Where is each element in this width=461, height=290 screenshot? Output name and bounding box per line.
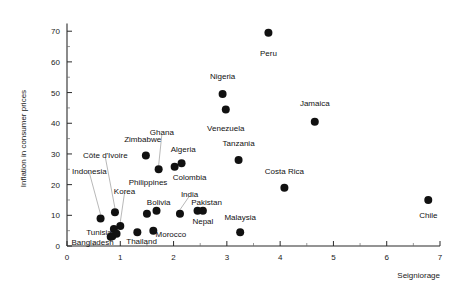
data-point (236, 228, 244, 236)
x-axis-tick-label: 1 (118, 253, 123, 262)
data-point-label: Thailand (126, 237, 157, 246)
x-axis-tick-label: 0 (65, 253, 70, 262)
x-axis-tick-label: 6 (384, 253, 389, 262)
x-axis-tick-label: 5 (331, 253, 336, 262)
data-point (155, 165, 163, 173)
data-point (97, 214, 105, 222)
data-point (178, 159, 186, 167)
data-point-label: Nepal (192, 217, 213, 226)
x-axis-tick-label: 7 (438, 253, 443, 262)
data-point (176, 210, 184, 218)
data-point (280, 184, 288, 192)
x-axis-title: Seigniorage (397, 271, 440, 280)
scatter-chart-figure: 01020304050607001234567 PeruNigeriaVenez… (0, 0, 461, 290)
data-point (142, 151, 150, 159)
data-point (219, 90, 227, 98)
data-point-label: Peru (260, 49, 277, 58)
data-point (171, 163, 179, 171)
x-axis-tick-label: 4 (278, 253, 283, 262)
data-point-label: Jamaica (300, 99, 330, 108)
x-axis-tick-label: 3 (225, 253, 230, 262)
data-point-label: Algeria (171, 145, 196, 154)
data-point-label: Indonesia (72, 167, 107, 176)
data-point (424, 196, 432, 204)
data-point-label: Nigeria (210, 72, 236, 81)
data-point (235, 156, 243, 164)
y-axis-tick-label: 10 (51, 211, 60, 220)
label-leader-line (120, 193, 124, 222)
data-point-label: Colombia (173, 173, 207, 182)
x-axis-tick-label: 2 (171, 253, 176, 262)
data-point-label: Bangladesh (71, 238, 113, 247)
y-axis-tick-label: 70 (51, 27, 60, 36)
data-point-label: Pakistan (191, 198, 222, 207)
data-point-label: Chile (419, 211, 438, 220)
y-axis-tick-label: 60 (51, 58, 60, 67)
data-point-label: Venezuela (207, 124, 245, 133)
y-axis-tick-label: 0 (56, 242, 61, 251)
point-labels-group: PeruNigeriaVenezuelaJamaicaZimbabweGhana… (71, 49, 437, 247)
data-point (311, 118, 319, 126)
axis-titles-group: SeigniorageInflation in consumer prices (19, 90, 441, 280)
data-point-label: Costa Rica (265, 167, 305, 176)
data-point (143, 210, 151, 218)
data-point (133, 228, 141, 236)
data-point-label: Morocco (156, 230, 187, 239)
y-axis-tick-label: 30 (51, 150, 60, 159)
data-point (111, 208, 119, 216)
data-point-label: Malaysia (224, 213, 256, 222)
data-point (264, 29, 272, 37)
data-point-label: Philippines (129, 178, 168, 187)
data-point-label: Côte d'Ivoire (83, 151, 128, 160)
label-leader-line (105, 157, 115, 208)
y-axis-tick-label: 50 (51, 89, 60, 98)
y-axis-title: Inflation in consumer prices (19, 90, 28, 187)
data-point (194, 207, 202, 215)
data-point-label: Ghana (150, 128, 175, 137)
data-point (153, 207, 161, 215)
data-point-label: Tunisia (86, 228, 112, 237)
data-point (222, 105, 230, 113)
data-point-label: Tanzania (223, 139, 256, 148)
label-leader-line (89, 173, 100, 215)
data-point-label: Korea (114, 187, 136, 196)
y-axis-tick-label: 40 (51, 119, 60, 128)
y-axis-tick-label: 20 (51, 181, 60, 190)
plot-canvas: 01020304050607001234567 PeruNigeriaVenez… (0, 0, 461, 290)
data-point-label: Bolivia (147, 198, 171, 207)
